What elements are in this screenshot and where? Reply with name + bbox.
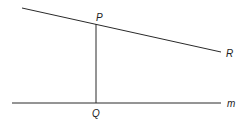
label-q: Q xyxy=(92,108,100,119)
label-m: m xyxy=(227,98,235,109)
geometry-diagram: P R Q m xyxy=(0,0,243,126)
label-p: P xyxy=(96,12,103,23)
line-pr xyxy=(22,8,221,52)
label-r: R xyxy=(226,48,233,59)
